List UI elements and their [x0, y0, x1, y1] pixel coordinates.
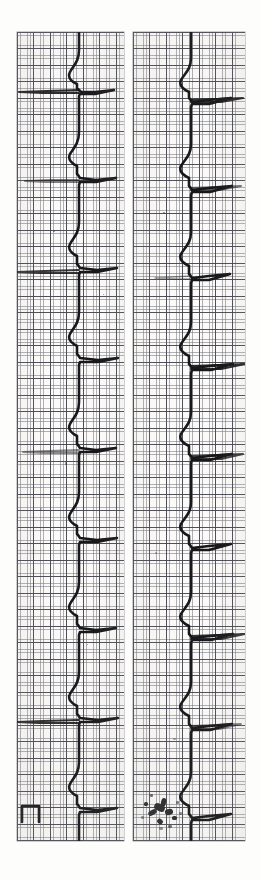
paper-speck: [40, 508, 42, 510]
ecg-strip-left[interactable]: [17, 32, 124, 841]
ecg-trace-left: [17, 32, 124, 841]
paper-speck: [173, 738, 176, 740]
paper-speck: [65, 462, 67, 465]
ecg-scan-canvas: S: [0, 0, 261, 880]
paper-speck: [163, 212, 165, 214]
edge-label: S: [0, 831, 1, 836]
ecg-trace-right: [133, 32, 245, 841]
paper-speck: [155, 552, 157, 554]
calibration-pulse-left: [22, 806, 39, 822]
paper-speck: [53, 230, 55, 232]
ecg-strip-right[interactable]: [133, 32, 245, 841]
